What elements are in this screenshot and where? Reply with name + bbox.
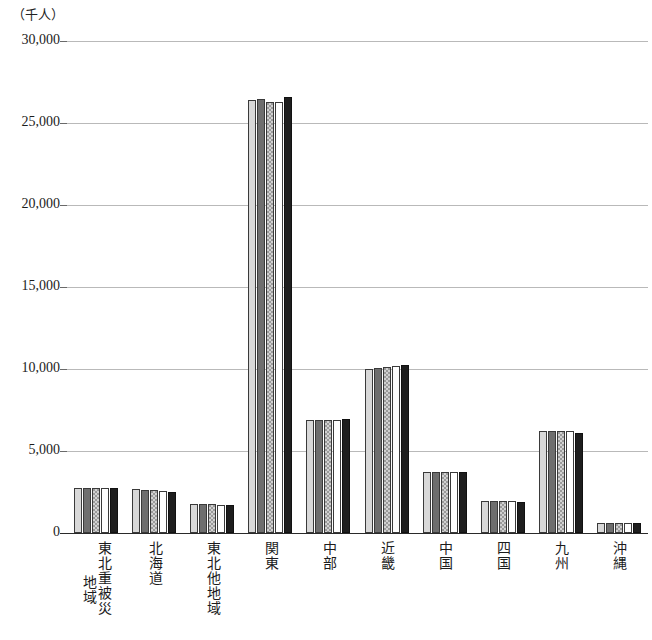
bar [432,472,440,533]
bar [441,472,449,533]
bar [615,523,623,533]
bar [342,419,350,533]
bar [450,472,458,533]
bar [217,505,225,533]
x-axis-category-label: 沖縄 [590,541,648,640]
bar [392,366,400,533]
category-label-text: 北海道 [147,541,162,586]
x-axis-category-label: 関東 [241,541,299,640]
y-axis-tick-label: 20,000 [4,196,60,212]
bar-group [597,41,641,533]
category-label-text: 関東 [263,541,278,571]
plot-area [67,41,648,533]
bar [168,492,176,533]
bar [150,490,158,533]
bar [315,420,323,533]
bar [208,504,216,533]
bar [606,523,614,533]
x-axis-category-label: 中国 [416,541,474,640]
bar [423,472,431,533]
x-axis-category-label: 東北重被災地域 [67,541,125,640]
bar-group [190,41,234,533]
y-axis-tick [60,369,67,370]
x-axis-category-label: 近畿 [358,541,416,640]
bar-group [74,41,118,533]
bar [365,369,373,533]
y-axis-tick [60,287,67,288]
bar-groups [67,41,648,533]
bar [333,420,341,533]
bar [199,504,207,533]
bar [110,488,118,533]
x-axis-line [60,533,648,534]
y-axis-tick [60,205,67,206]
bar [132,489,140,533]
bar [481,501,489,533]
bar [190,504,198,533]
bar [248,100,256,533]
bar-group [132,41,176,533]
category-label-text: 東北重被災 [96,541,111,616]
y-axis-tick-label: 10,000 [4,360,60,376]
bar [557,431,565,533]
y-axis-unit-label: （千人） [12,4,64,23]
x-axis-category-label: 中部 [299,541,357,640]
y-axis-tick-label: 30,000 [4,32,60,48]
y-axis-tick [60,451,67,452]
bar-group [248,41,292,533]
bar [401,365,409,533]
bar [508,501,516,533]
bar-group [539,41,583,533]
bar [266,102,274,533]
bar [257,99,265,533]
category-label-text: 中国 [437,541,452,571]
bar [548,431,556,533]
category-label-text: 沖縄 [611,541,626,571]
bar [374,368,382,533]
y-axis-tick-label: 15,000 [4,278,60,294]
bar-group [423,41,467,533]
bar [597,523,605,533]
bar [101,488,109,533]
bar [92,488,100,533]
bar-group [481,41,525,533]
bar [566,431,574,533]
y-axis-tick-labels: 30,00025,00020,00015,00010,0005,0000 [0,41,60,533]
category-label-text: 九州 [553,541,568,571]
x-axis-category-label: 九州 [532,541,590,640]
bar-group [365,41,409,533]
y-axis-tick [60,41,67,42]
category-label-text: 東北他地域 [205,541,220,616]
bar [517,502,525,533]
x-axis-category-label: 四国 [474,541,532,640]
category-label-text: 四国 [495,541,510,571]
y-axis-tick [60,123,67,124]
category-label-text-secondary: 地域 [81,541,96,605]
bar [284,97,292,533]
bar [275,102,283,533]
bar [324,420,332,533]
bar-chart: （千人） 30,00025,00020,00015,00010,0005,000… [0,0,652,640]
x-axis-category-label: 東北他地域 [183,541,241,640]
category-label-text: 近畿 [379,541,394,571]
y-axis-tick-label: 0 [4,524,60,540]
category-label-text: 中部 [321,541,336,571]
bar [226,505,234,533]
bar [633,523,641,533]
bar [83,488,91,533]
x-axis-category-labels: 東北重被災地域北海道東北他地域関東中部近畿中国四国九州沖縄 [67,541,648,640]
y-axis-tick-label: 25,000 [4,114,60,130]
bar-group [306,41,350,533]
bar [383,367,391,533]
bar [141,490,149,533]
bar [539,431,547,533]
bar [490,501,498,533]
x-axis-category-label: 北海道 [125,541,183,640]
bar [459,472,467,533]
bar [74,488,82,533]
bar [575,433,583,533]
bar [159,491,167,533]
y-axis-tick-label: 5,000 [4,442,60,458]
bar [499,501,507,533]
bar [306,420,314,533]
